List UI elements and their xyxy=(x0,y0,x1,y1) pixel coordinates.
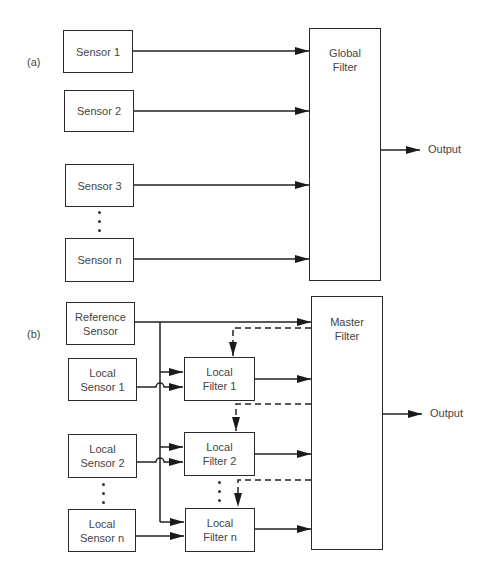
output-label-a: Output xyxy=(428,143,461,155)
sensor-3-label: Sensor 3 xyxy=(77,179,121,193)
local-filter-2-box: Local Filter 2 xyxy=(184,432,255,476)
ellipsis-dots-filters xyxy=(218,481,222,508)
output-label-b: Output xyxy=(430,407,463,419)
local-filter-1-label-line1: Local xyxy=(203,365,237,379)
sensor-3-box: Sensor 3 xyxy=(65,164,134,207)
sensor-1-label: Sensor 1 xyxy=(76,45,120,59)
master-filter-label-line2: Filter xyxy=(330,329,364,343)
ellipsis-dots xyxy=(98,211,102,238)
local-sensor-1-label-line1: Local xyxy=(80,366,124,380)
local-filter-1-label-line2: Filter 1 xyxy=(203,379,237,393)
local-sensor-n-label-line1: Local xyxy=(80,517,124,531)
reference-sensor-label-line1: Reference xyxy=(75,310,126,324)
connection-wires xyxy=(0,0,490,580)
local-sensor-1-box: Local Sensor 1 xyxy=(68,358,137,401)
master-filter-label-line1: Master xyxy=(330,315,364,329)
local-sensor-1-label-line2: Sensor 1 xyxy=(80,380,124,394)
panel-a-label: (a) xyxy=(27,56,40,68)
ellipsis-dots-sensors xyxy=(102,483,106,510)
local-filter-2-label-line2: Filter 2 xyxy=(203,454,237,468)
reference-sensor-label-line2: Sensor xyxy=(75,324,126,338)
local-sensor-n-label-line2: Sensor n xyxy=(80,531,124,545)
local-filter-n-label-line1: Local xyxy=(203,516,237,530)
sensor-1-box: Sensor 1 xyxy=(63,30,133,73)
local-sensor-2-label-line1: Local xyxy=(80,442,124,456)
local-filter-2-label-line1: Local xyxy=(203,440,237,454)
panel-b-label: (b) xyxy=(27,328,40,340)
sensor-2-box: Sensor 2 xyxy=(64,90,134,132)
local-sensor-2-box: Local Sensor 2 xyxy=(68,434,137,478)
local-filter-1-box: Local Filter 1 xyxy=(184,357,255,401)
sensor-2-label: Sensor 2 xyxy=(77,104,121,118)
reference-sensor-box: Reference Sensor xyxy=(66,302,135,345)
global-filter-box: Global Filter xyxy=(309,28,381,281)
local-filter-n-label-line2: Filter n xyxy=(203,530,237,544)
master-filter-box: Master Filter xyxy=(311,296,383,550)
sensor-n-box: Sensor n xyxy=(65,238,134,282)
local-sensor-2-label-line2: Sensor 2 xyxy=(80,456,124,470)
sensor-n-label: Sensor n xyxy=(77,253,121,267)
global-filter-label-line1: Global xyxy=(329,46,361,60)
local-filter-n-box: Local Filter n xyxy=(185,508,255,552)
local-sensor-n-box: Local Sensor n xyxy=(68,509,136,552)
global-filter-label-line2: Filter xyxy=(329,60,361,74)
